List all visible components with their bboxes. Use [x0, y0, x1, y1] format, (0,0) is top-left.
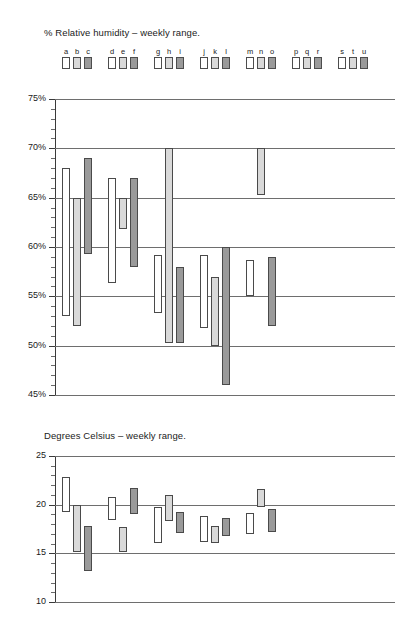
legend-swatch-t[interactable]	[349, 57, 357, 69]
legend-swatch-k[interactable]	[211, 57, 219, 69]
ytick-label-celsius-10: 10	[0, 597, 46, 606]
range-bar-humidity-j[interactable]	[200, 255, 208, 328]
legend-letter-row: def	[107, 46, 140, 57]
range-bar-humidity-h[interactable]	[165, 148, 173, 342]
ytick-minor-humidity-69	[51, 158, 55, 159]
legend-swatch-d[interactable]	[108, 57, 116, 69]
range-bar-humidity-o[interactable]	[268, 257, 276, 326]
range-bar-celsius-n[interactable]	[257, 489, 265, 507]
humidity-plot-area	[55, 99, 395, 395]
ytick-minor-celsius-23	[51, 475, 55, 476]
range-bar-humidity-n[interactable]	[257, 148, 265, 194]
legend-swatch-m[interactable]	[246, 57, 254, 69]
gridline-celsius-15	[55, 553, 395, 554]
series-legend: abcdefghijklmnopqrstu	[0, 46, 405, 78]
range-bar-humidity-a[interactable]	[62, 168, 70, 316]
gridline-celsius-25	[55, 456, 395, 457]
ytick-minor-humidity-59	[51, 257, 55, 258]
legend-letter-r: r	[313, 46, 324, 57]
range-bar-celsius-l[interactable]	[222, 518, 230, 536]
legend-letter-a: a	[61, 46, 72, 57]
legend-swatch-l[interactable]	[222, 57, 230, 69]
range-bar-celsius-k[interactable]	[211, 526, 219, 543]
legend-swatch-p[interactable]	[292, 57, 300, 69]
ytick-minor-humidity-63	[51, 217, 55, 218]
ytick-minor-humidity-54	[51, 306, 55, 307]
range-bar-celsius-d[interactable]	[108, 497, 116, 520]
range-bar-humidity-f[interactable]	[130, 178, 138, 267]
legend-swatch-o[interactable]	[268, 57, 276, 69]
legend-letter-t: t	[348, 46, 359, 57]
range-bar-celsius-f[interactable]	[130, 488, 138, 514]
ytick-minor-humidity-74	[51, 109, 55, 110]
legend-letter-k: k	[210, 46, 221, 57]
legend-swatch-j[interactable]	[200, 57, 208, 69]
range-bar-celsius-o[interactable]	[268, 509, 276, 532]
gridline-celsius-10	[55, 602, 395, 603]
legend-swatch-s[interactable]	[338, 57, 346, 69]
range-bar-humidity-c[interactable]	[84, 158, 92, 254]
range-bar-humidity-g[interactable]	[154, 255, 162, 313]
legend-swatch-q[interactable]	[303, 57, 311, 69]
ytick-major-humidity-55	[49, 296, 55, 297]
ytick-major-celsius-25	[49, 456, 55, 457]
range-bar-celsius-m[interactable]	[246, 513, 254, 533]
legend-swatch-e[interactable]	[119, 57, 127, 69]
ytick-major-humidity-65	[49, 198, 55, 199]
legend-swatch-u[interactable]	[360, 57, 368, 69]
legend-swatch-row	[245, 57, 278, 69]
ytick-minor-humidity-49	[51, 356, 55, 357]
legend-swatch-b[interactable]	[73, 57, 81, 69]
legend-swatch-i[interactable]	[176, 57, 184, 69]
ytick-minor-celsius-13	[51, 573, 55, 574]
legend-swatch-c[interactable]	[84, 57, 92, 69]
legend-letter-u: u	[359, 46, 370, 57]
ytick-minor-celsius-18	[51, 524, 55, 525]
ytick-minor-humidity-48	[51, 365, 55, 366]
range-bar-humidity-b[interactable]	[73, 198, 81, 326]
legend-letter-f: f	[129, 46, 140, 57]
ytick-major-humidity-60	[49, 247, 55, 248]
range-bar-celsius-e[interactable]	[119, 527, 127, 552]
legend-swatch-r[interactable]	[314, 57, 322, 69]
range-bar-humidity-d[interactable]	[108, 178, 116, 284]
legend-letter-c: c	[83, 46, 94, 57]
gridline-humidity-65	[55, 198, 395, 199]
legend-letter-row: stu	[337, 46, 370, 57]
legend-swatch-f[interactable]	[130, 57, 138, 69]
range-bar-celsius-g[interactable]	[154, 507, 162, 543]
ytick-minor-celsius-17	[51, 534, 55, 535]
range-bar-celsius-b[interactable]	[73, 505, 81, 553]
range-bar-humidity-l[interactable]	[222, 247, 230, 385]
ytick-major-celsius-10	[49, 602, 55, 603]
range-bar-celsius-i[interactable]	[176, 512, 184, 532]
legend-letter-m: m	[245, 46, 256, 57]
range-bar-celsius-j[interactable]	[200, 516, 208, 541]
legend-swatch-a[interactable]	[62, 57, 70, 69]
range-bar-celsius-a[interactable]	[62, 477, 70, 512]
range-bar-humidity-k[interactable]	[211, 277, 219, 346]
range-bar-humidity-m[interactable]	[246, 260, 254, 297]
legend-letter-d: d	[107, 46, 118, 57]
range-bar-celsius-h[interactable]	[165, 495, 173, 521]
ytick-minor-humidity-46	[51, 385, 55, 386]
legend-swatch-g[interactable]	[154, 57, 162, 69]
range-bar-humidity-e[interactable]	[119, 198, 127, 230]
legend-letter-row: mno	[245, 46, 278, 57]
range-bar-humidity-i[interactable]	[176, 267, 184, 343]
ytick-label-humidity-75: 75%	[0, 94, 46, 103]
legend-letter-e: e	[118, 46, 129, 57]
legend-swatch-n[interactable]	[257, 57, 265, 69]
humidity-chart-title: % Relative humidity – weekly range.	[44, 27, 200, 38]
ytick-major-celsius-20	[49, 505, 55, 506]
ytick-major-humidity-50	[49, 346, 55, 347]
range-bar-celsius-c[interactable]	[84, 526, 92, 571]
ytick-minor-humidity-56	[51, 286, 55, 287]
ytick-minor-humidity-51	[51, 336, 55, 337]
ytick-minor-celsius-14	[51, 563, 55, 564]
legend-letter-q: q	[302, 46, 313, 57]
ytick-minor-humidity-64	[51, 208, 55, 209]
legend-swatch-h[interactable]	[165, 57, 173, 69]
gridline-celsius-20	[55, 505, 395, 506]
legend-letter-row: abc	[61, 46, 94, 57]
